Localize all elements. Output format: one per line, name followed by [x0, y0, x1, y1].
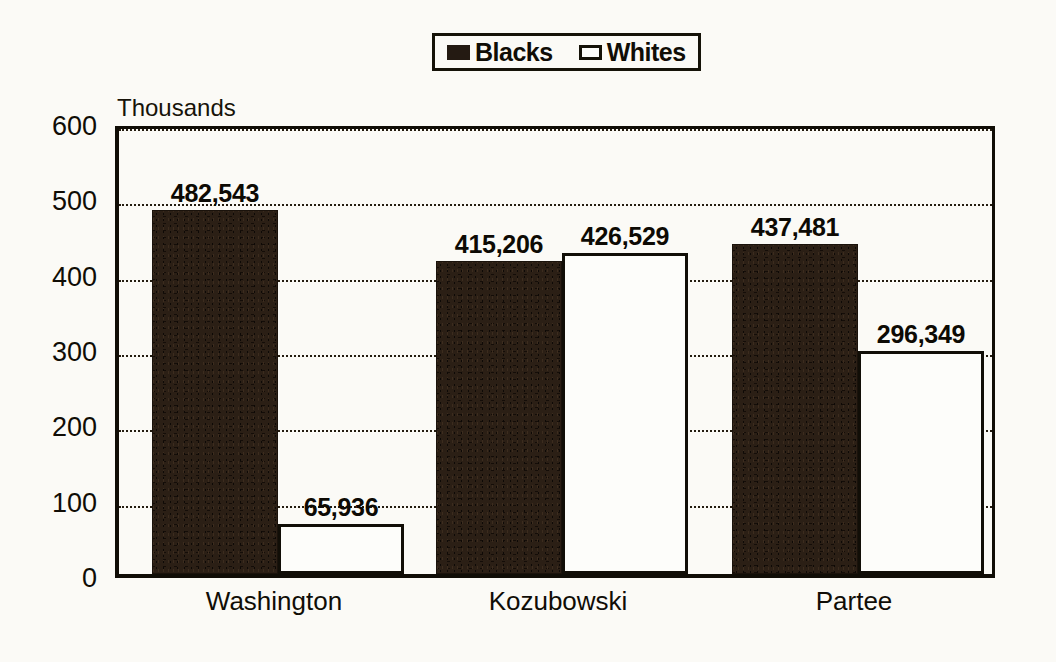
- x-axis-category-labels: WashingtonKozubowskiPartee: [115, 588, 995, 628]
- value-label-partee-whites: 296,349: [877, 322, 965, 347]
- bar-washington-whites: [278, 524, 404, 574]
- value-label-washington-blacks: 482,543: [171, 181, 259, 206]
- bar-partee-whites: [858, 351, 984, 574]
- y-axis-tick-labels: 0100200300400500600: [0, 126, 105, 578]
- bar-washington-blacks: [152, 210, 278, 574]
- bar-partee-blacks: [732, 244, 858, 574]
- category-label-washington: Washington: [206, 588, 342, 614]
- y-axis-tick-label: 100: [52, 489, 97, 516]
- legend-entry-whites: Whites: [579, 40, 686, 65]
- y-axis-tick-label: 400: [52, 263, 97, 290]
- bar-kozubowski-blacks: [436, 261, 562, 574]
- value-label-kozubowski-whites: 426,529: [581, 224, 669, 249]
- bar-kozubowski-whites: [562, 253, 688, 574]
- category-label-partee: Partee: [816, 588, 893, 614]
- y-axis-tick-label: 0: [82, 565, 97, 592]
- legend-entry-blacks: Blacks: [447, 40, 553, 65]
- bar-chart-figure: Blacks Whites Thousands 0100200300400500…: [0, 0, 1056, 662]
- y-axis-tick-label: 200: [52, 414, 97, 441]
- chart-legend: Blacks Whites: [432, 33, 701, 71]
- y-axis-tick-label: 500: [52, 188, 97, 215]
- y-axis-unit-caption: Thousands: [117, 96, 236, 120]
- filled-dark-square-icon: [447, 45, 470, 60]
- legend-label-whites: Whites: [607, 40, 686, 65]
- y-axis-tick-label: 600: [52, 113, 97, 140]
- value-label-washington-whites: 65,936: [304, 495, 379, 520]
- legend-label-blacks: Blacks: [475, 40, 553, 65]
- y-axis-tick-label: 300: [52, 339, 97, 366]
- value-label-kozubowski-blacks: 415,206: [455, 232, 543, 257]
- plot-area: 482,54365,936415,206426,529437,481296,34…: [115, 126, 995, 578]
- hollow-square-icon: [579, 45, 602, 60]
- category-label-kozubowski: Kozubowski: [489, 588, 628, 614]
- value-label-partee-blacks: 437,481: [751, 215, 839, 240]
